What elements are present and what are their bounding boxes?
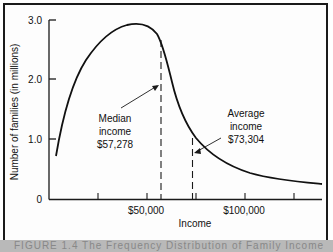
- x-axis-title: Income: [179, 218, 212, 229]
- x-tick-label-100k: $100,000: [223, 205, 265, 216]
- median-label-line2: income: [99, 126, 132, 137]
- y-tick-label-2: 2.0: [28, 74, 42, 85]
- median-label-line3: $57,278: [97, 139, 134, 150]
- distribution-curve: [56, 24, 322, 184]
- y-tick-label-1: 1.0: [28, 134, 42, 145]
- figure-caption-text: FIGURE 1.4 The Frequency Distribution of…: [14, 240, 324, 251]
- median-arrow: [121, 86, 157, 108]
- x-tick-label-50k: $50,000: [128, 205, 165, 216]
- average-arrow-head: [194, 148, 201, 154]
- median-label-line1: Median: [99, 113, 132, 124]
- y-axis-title: Number of families (in millions): [9, 44, 20, 181]
- average-label-line1: Average: [227, 108, 265, 119]
- y-tick-label-3: 3.0: [28, 15, 42, 26]
- y-tick-label-0: 0: [36, 194, 42, 205]
- average-label-line2: income: [230, 121, 263, 132]
- figure-caption-strip: FIGURE 1.4 The Frequency Distribution of…: [0, 240, 333, 252]
- income-distribution-chart: 3.0 2.0 1.0 0 $50,000 $100,000 Income Nu…: [0, 0, 333, 252]
- average-label-line3: $73,304: [228, 134, 265, 145]
